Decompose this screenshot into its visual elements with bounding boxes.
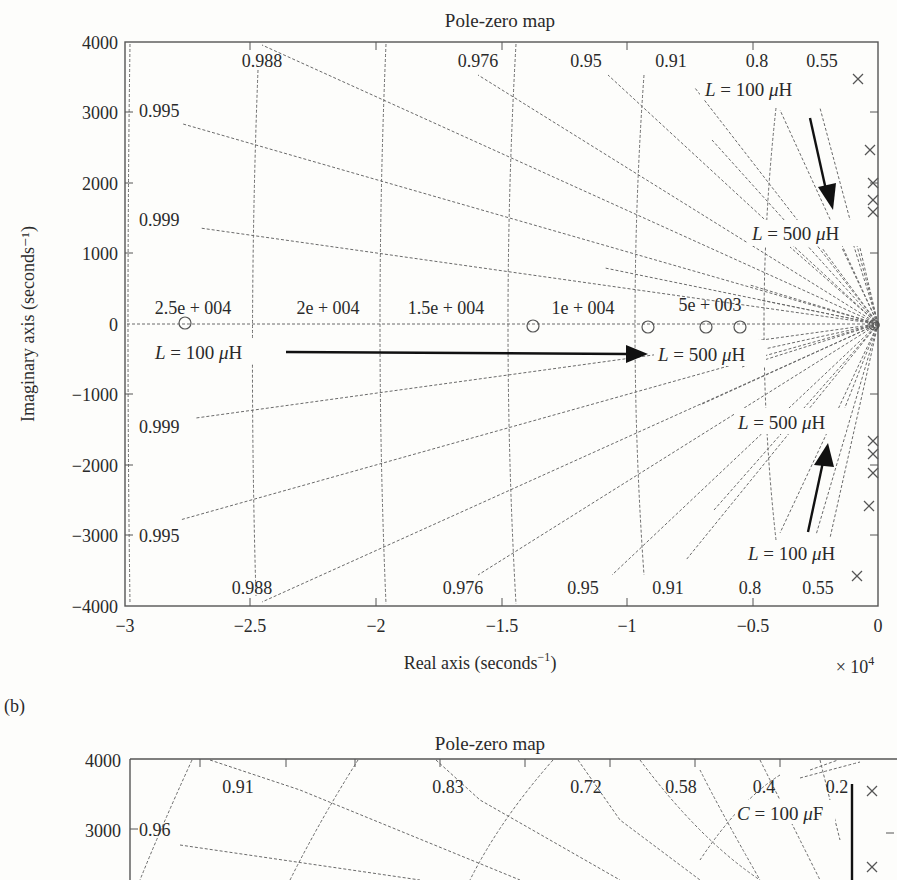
damping-label: 0.995 [139,526,180,546]
arrowhead-lower [814,443,834,467]
panel-a-title: Pole-zero map [445,10,555,31]
y-tick-label: 3000 [82,103,118,123]
arrow-real-axis [286,352,628,354]
damping-label: 0.988 [242,51,283,71]
damping-label: 0.999 [139,417,180,437]
damping-label: 0.55 [806,51,838,71]
zero-marker [527,320,539,332]
y-tick-label: 4000 [85,751,121,771]
y-tick-label: 0 [109,315,118,335]
zero-markers [179,317,879,333]
damping-label: 0.72 [570,777,602,797]
damping-label: 0.2 [826,777,849,797]
zero-marker [642,321,654,333]
damping-labels-bottom: 0.988 0.976 0.95 0.91 0.8 0.55 [232,578,834,598]
damping-grid-lines [127,45,878,602]
x-tick-label: −3 [115,616,134,636]
y-tick-label: 1000 [82,244,118,264]
damping-label: 0.83 [432,777,464,797]
frequency-labels: 2.5e + 004 2e + 004 1.5e + 004 1e + 004 … [155,295,742,318]
y-axis-label: Imaginary axis (seconds⁻¹) [18,226,39,422]
damping-label: 0.55 [802,578,834,598]
damping-label: 0.4 [753,777,776,797]
panel-b-title: Pole-zero map [435,733,545,754]
damping-label: 0.988 [232,578,273,598]
annotation-C100: C = 100 μF [737,803,823,824]
x-tick-label: −1 [617,616,636,636]
damping-label: 0.95 [570,51,602,71]
annotation-real-L100: L = 100 μH [154,342,243,363]
frequency-label: 2.5e + 004 [155,298,232,318]
x-multiplier-label: × 104 [836,654,875,677]
x-tick-label: 0 [874,616,883,636]
damping-label: 0.91 [652,578,684,598]
damping-label: 0.95 [567,578,599,598]
damping-label: 0.91 [655,51,687,71]
frequency-label: 5e + 003 [678,295,741,315]
damping-label: 0.999 [139,210,180,230]
arrowhead-upper [818,183,836,210]
annotation-real-L500: L = 500 μH [657,344,746,365]
arrow-lower [808,462,823,532]
pole-marker [867,862,877,872]
zero-marker [734,321,746,333]
frequency-label: 1e + 004 [551,298,614,318]
damping-label: 0.995 [139,101,180,121]
zero-marker [700,321,712,333]
damping-labels-top: 0.988 0.976 0.95 0.91 0.8 0.55 [242,51,838,71]
damping-label: 0.91 [222,777,254,797]
annotation-lower-L100: L = 100 μH [747,543,836,564]
frequency-label: 2e + 004 [296,298,359,318]
y-tick-label: 4000 [82,33,118,53]
y-tick-label: 2000 [82,174,118,194]
y-tick-label: −1000 [72,385,118,405]
annotation-upper-L500: L = 500 μH [751,223,840,244]
arrow-upper [810,118,826,190]
x-tick-label: −1.5 [486,616,519,636]
pole-marker [867,786,877,796]
panel-a: Pole-zero map [18,10,883,677]
annotation-upper-L100: L = 100 μH [704,79,793,100]
y-tick-label: 3000 [85,821,121,841]
y-axis-a: 4000 3000 2000 1000 0 −1000 −2000 −3000 … [72,33,878,617]
zero-marker [179,317,191,329]
frequency-label: 1.5e + 004 [408,298,485,318]
x-tick-label: −0.5 [737,616,770,636]
x-tick-label: −2 [366,616,385,636]
panel-b-label: (b) [4,696,25,717]
x-axis-label: Real axis (seconds−1) [404,650,557,674]
arrowhead-real-axis [626,345,648,363]
y-tick-label: −4000 [72,597,118,617]
annotation-lower-L500: L = 500 μH [737,412,826,433]
damping-label: 0.8 [746,51,769,71]
y-tick-label: −3000 [72,526,118,546]
figure-canvas: Pole-zero map [0,0,897,880]
panel-b: (b) Pole-zero map [4,696,897,880]
damping-label: 0.8 [739,578,762,598]
damping-label: 0.58 [665,777,697,797]
annotations-a: L = 100 μH L = 500 μH L = 100 μH L = 500… [150,76,868,566]
x-tick-label: −2.5 [234,616,267,636]
y-tick-label: −2000 [72,456,118,476]
damping-label: 0.96 [139,820,171,840]
damping-label: 0.976 [443,578,484,598]
damping-label: 0.976 [458,51,499,71]
